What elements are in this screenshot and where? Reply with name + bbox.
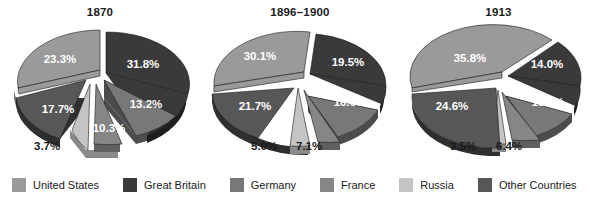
pie-charts-row: 1870 (0, 0, 597, 168)
slice-label-united-states-1896-1900: 30.1% (244, 50, 277, 62)
slice-label-france-1870: 10.3% (93, 122, 126, 134)
slice-label-united-states-1870: 23.3% (44, 53, 77, 65)
slice-label-other-countries-1896-1900: 21.7% (239, 100, 272, 112)
legend-swatch-russia (399, 178, 413, 192)
slice-label-russia-1896-1900: 5.0% (251, 140, 277, 152)
slice-label-germany-1913: 15.7% (532, 96, 565, 108)
chart-title-1896-1900: 1896–1900 (200, 6, 400, 18)
chart-title-1870: 1870 (0, 6, 200, 18)
slice-label-great-britain-1870: 31.8% (127, 58, 160, 70)
legend-label-france: France (341, 179, 375, 191)
slice-label-france-1896-1900: 7.1% (296, 140, 322, 152)
legend-item-other-countries: Other Countries (478, 178, 577, 192)
slice-label-france-1913: 6.4% (496, 140, 522, 152)
legend-label-russia: Russia (420, 179, 454, 191)
legend-label-united-states: United States (33, 179, 99, 191)
legend-swatch-germany (230, 178, 244, 192)
pie-chart-1870-graphic: 31.8% 13.2% 10.3% 17.7% 23.3% (0, 18, 200, 163)
legend-label-great-britain: Great Britain (144, 179, 206, 191)
slice-label-great-britain-1896-1900: 19.5% (332, 56, 365, 68)
slice-label-russia-1870: 3.7% (34, 140, 60, 152)
legend-swatch-great-britain (123, 178, 137, 192)
legend-label-germany: Germany (251, 179, 296, 191)
slice-label-russia-1913: 3.5% (450, 140, 476, 152)
slice-label-other-countries-1913: 24.6% (436, 100, 469, 112)
legend-swatch-other-countries (478, 178, 492, 192)
legend-swatch-united-states (12, 178, 26, 192)
pie-chart-1896-1900: 1896–1900 (200, 0, 400, 168)
legend-swatch-france (320, 178, 334, 192)
legend-label-other-countries: Other Countries (499, 179, 577, 191)
slice-label-united-states-1913: 35.8% (454, 52, 487, 64)
slice-label-germany-1896-1900: 16.6% (334, 96, 367, 108)
slice-label-other-countries-1870: 17.7% (42, 103, 75, 115)
legend-item-germany: Germany (230, 178, 296, 192)
chart-legend: United States Great Britain Germany Fran… (0, 172, 597, 198)
legend-item-france: France (320, 178, 375, 192)
legend-item-great-britain: Great Britain (123, 178, 206, 192)
legend-item-united-states: United States (12, 178, 99, 192)
legend-item-russia: Russia (399, 178, 454, 192)
chart-title-1913: 1913 (400, 6, 597, 18)
pie-chart-1913: 1913 (400, 0, 597, 168)
pie-chart-1870: 1870 (0, 0, 200, 168)
slice-label-germany-1870: 13.2% (130, 98, 163, 110)
slice-label-great-britain-1913: 14.0% (531, 58, 564, 70)
